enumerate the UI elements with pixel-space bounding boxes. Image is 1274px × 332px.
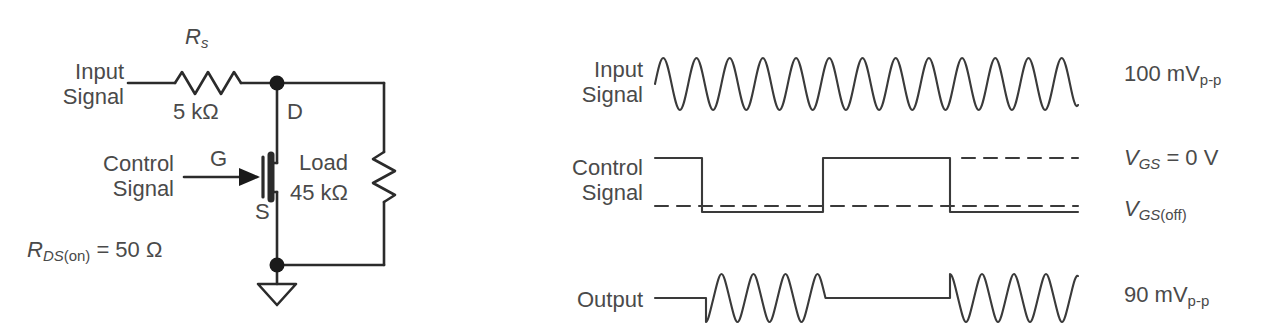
figure-root: Input Signal Rs 5 kΩ Control Signal G D … bbox=[0, 0, 1274, 332]
terminal-label-drain: D bbox=[287, 100, 303, 125]
rds-on-label: RDS(on) = 50 Ω bbox=[27, 238, 162, 265]
waveform-label-control: Control Signal bbox=[522, 156, 643, 205]
rds-value: = 50 Ω bbox=[90, 237, 162, 262]
waveform-value-input-subscript: p-p bbox=[1200, 71, 1222, 88]
waveform-value-vgs-off: VGS(off) bbox=[1124, 197, 1187, 224]
resistor-rs-subscript: s bbox=[201, 34, 208, 51]
waveform-value-output-subscript: p-p bbox=[1188, 292, 1210, 309]
vgs-off-subscript-off: (off) bbox=[1160, 206, 1186, 223]
terminal-label-gate: G bbox=[210, 147, 227, 172]
waveform-control-square bbox=[655, 158, 1078, 212]
rds-subscript-ds: DS bbox=[43, 247, 64, 264]
circuit-input-signal-label: Input Signal bbox=[28, 60, 124, 109]
vgs-zero-rest: = 0 V bbox=[1160, 145, 1218, 170]
waveform-output-gated-sine bbox=[655, 274, 1078, 322]
waveform-value-vgs-zero: VGS = 0 V bbox=[1124, 146, 1218, 173]
vgs-off-subscript-gs: GS bbox=[1139, 206, 1161, 223]
resistor-rs-symbol: R bbox=[185, 24, 201, 49]
gate-arrowhead-icon bbox=[239, 168, 260, 186]
junction-dot-drain bbox=[270, 76, 285, 91]
waveform-value-input: 100 mVp-p bbox=[1124, 62, 1221, 89]
waveform-label-control-line2: Signal bbox=[522, 181, 643, 206]
resistor-rs-label: Rs bbox=[185, 25, 208, 52]
junction-dot-ground bbox=[270, 258, 285, 273]
vgs-zero-subscript: GS bbox=[1139, 155, 1161, 172]
waveform-value-input-main: 100 mV bbox=[1124, 61, 1200, 86]
waveform-label-input-line2: Signal bbox=[540, 83, 643, 108]
waveform-value-output-main: 90 mV bbox=[1124, 282, 1188, 307]
vgs-zero-symbol-v: V bbox=[1124, 145, 1139, 170]
waveform-panel bbox=[655, 58, 1078, 322]
waveform-input-sine bbox=[655, 58, 1078, 110]
waveform-label-input-line1: Input bbox=[540, 58, 643, 83]
circuit-control-signal-line2: Signal bbox=[40, 177, 174, 202]
load-label: Load bbox=[299, 151, 348, 176]
rds-subscript-on: (on) bbox=[64, 247, 91, 264]
waveform-label-control-line1: Control bbox=[522, 156, 643, 181]
circuit-input-signal-line2: Signal bbox=[28, 85, 124, 110]
waveform-label-output: Output bbox=[531, 288, 643, 313]
vgs-off-symbol-v: V bbox=[1124, 196, 1139, 221]
circuit-input-signal-line1: Input bbox=[28, 60, 124, 85]
circuit-control-signal-line1: Control bbox=[40, 152, 174, 177]
waveform-label-input: Input Signal bbox=[540, 58, 643, 107]
load-resistor-symbol bbox=[373, 152, 395, 202]
resistor-rs-symbol bbox=[175, 72, 241, 94]
rds-symbol-r: R bbox=[27, 237, 43, 262]
load-value: 45 kΩ bbox=[290, 181, 348, 206]
terminal-label-source: S bbox=[255, 200, 270, 225]
circuit-control-signal-label: Control Signal bbox=[40, 152, 174, 201]
resistor-rs-value: 5 kΩ bbox=[173, 100, 219, 125]
waveform-value-output: 90 mVp-p bbox=[1124, 283, 1209, 310]
ground-triangle-icon bbox=[258, 284, 296, 305]
